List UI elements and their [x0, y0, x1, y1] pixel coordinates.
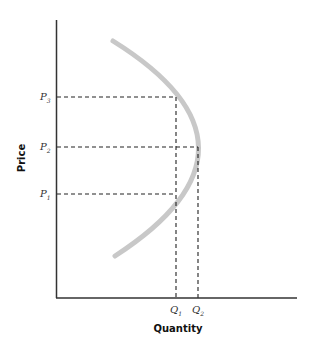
chart-canvas: P3 P2 P1 Q1 Q2 Quantity Price: [0, 0, 312, 348]
x-axis-title: Quantity: [154, 323, 203, 334]
p3-label: P3: [39, 91, 51, 104]
q2-label: Q2: [192, 304, 204, 317]
p1-label: P1: [39, 188, 51, 201]
backward-bending-curve: [113, 41, 199, 256]
q1-label: Q1: [170, 304, 182, 317]
y-axis-title: Price: [16, 144, 27, 173]
p2-label: P2: [39, 141, 51, 154]
